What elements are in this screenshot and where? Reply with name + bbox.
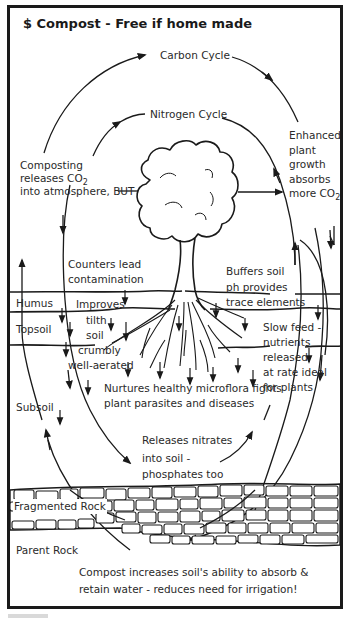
caption-fragment [8, 614, 48, 618]
diagram-title: $ Compost - Free if home made [23, 16, 252, 31]
tree-trunk [168, 240, 181, 310]
layer-label-topsoil: Topsoil [16, 322, 51, 337]
nitrogen-arc-left-top [93, 122, 120, 156]
layer-label-humus: Humus [16, 296, 53, 311]
nitrogen-cycle-label: Nitrogen Cycle [150, 107, 227, 122]
slowfeed-pointer [264, 405, 270, 420]
layer-label-subsoil: Subsoil [16, 400, 54, 415]
fragmented-rock-band [10, 483, 340, 545]
humus-top-line [10, 291, 182, 292]
carbon-cycle-label: Carbon Cycle [160, 48, 230, 63]
tree-canopy [137, 141, 238, 242]
carbon-arc-top-right [232, 57, 298, 122]
layer-label-parent-rock: Parent Rock [16, 543, 78, 558]
layer-label-fragmented-rock: Fragmented Rock [13, 499, 107, 514]
carbon-arc-top-left [44, 55, 145, 153]
diagram-artwork [0, 0, 353, 620]
rock-bricks [10, 485, 338, 544]
